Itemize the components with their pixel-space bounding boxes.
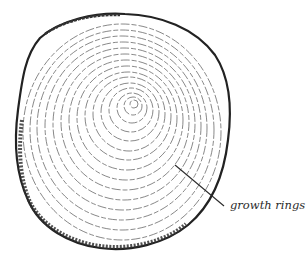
growth-rings-label: growth rings [230,198,305,212]
bark [16,14,230,249]
tree-cross-section-illustration [0,0,306,259]
